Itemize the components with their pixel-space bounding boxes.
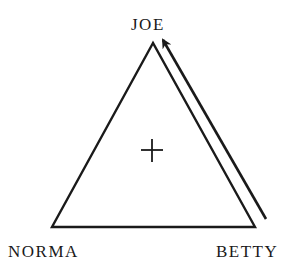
triangle-diagram: JOE NORMA BETTY [0,0,298,271]
node-label-joe: JOE [131,16,165,33]
arrow-betty-to-joe [163,40,266,219]
diagram-graphic [0,0,298,271]
triangle-shape [52,43,255,227]
node-label-norma: NORMA [8,243,79,260]
node-label-betty: BETTY [216,243,278,260]
center-plus-icon [141,139,163,162]
